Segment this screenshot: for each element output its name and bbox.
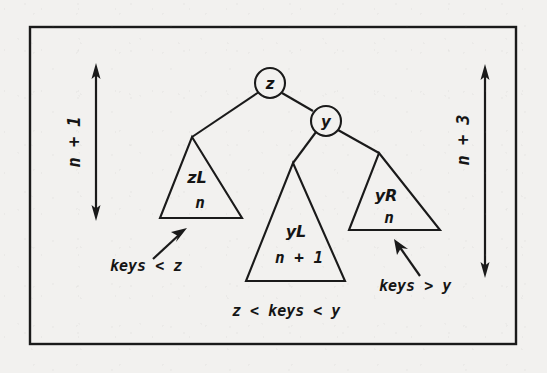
tree-node-y: y [311, 106, 341, 136]
subtree-zL-height: n [195, 193, 205, 212]
subtree-yL-height: n + 1 [275, 248, 323, 267]
annotation-keys-greater-than-y: keys > y [379, 239, 452, 295]
tree-edges [192, 92, 379, 163]
subtree-yR-height: n [384, 208, 394, 227]
height-arrow-left-label: n + 1 [64, 116, 84, 167]
edge-z-to-zL [192, 92, 259, 137]
annotation-keys-less-than-z-arrow-shaft [153, 234, 180, 259]
annotation-keys-greater-than-y-arrow-shaft [399, 246, 420, 276]
subtree-zL: zL n [160, 137, 242, 218]
annotation-z-less-keys-less-y: z < keys < y [232, 302, 341, 320]
subtree-yL-label: yL [286, 222, 307, 241]
edge-z-to-y [282, 93, 313, 111]
annotation-keys-less-than-z: keys < z [110, 228, 187, 275]
subtree-zL-label: zL [186, 168, 207, 187]
annotation-keys-less-than-z-label: keys < z [110, 257, 182, 275]
subtree-yL: yL n + 1 [246, 163, 345, 281]
node-z-label: z [265, 75, 275, 93]
annotation-z-less-keys-less-y-label: z < keys < y [232, 302, 341, 320]
annotation-keys-greater-than-y-label: keys > y [379, 277, 452, 295]
height-arrow-left: n + 1 [64, 63, 101, 221]
tree-node-z: z [255, 68, 285, 98]
height-arrow-right: n + 3 [453, 64, 490, 278]
annotation-keys-greater-than-y-arrow-head [394, 239, 408, 255]
bst-height-diagram: n + 1 n + 3 zL n yL n + 1 yR [0, 0, 547, 373]
edge-y-to-yL [293, 132, 316, 163]
height-arrow-right-label: n + 3 [453, 114, 473, 165]
edge-y-to-yR [338, 130, 379, 153]
subtree-yR: yR n [349, 153, 440, 230]
node-y-label: y [321, 113, 332, 131]
subtree-yR-label: yR [375, 186, 398, 205]
figure-root: n + 1 n + 3 zL n yL n + 1 yR [0, 0, 547, 373]
